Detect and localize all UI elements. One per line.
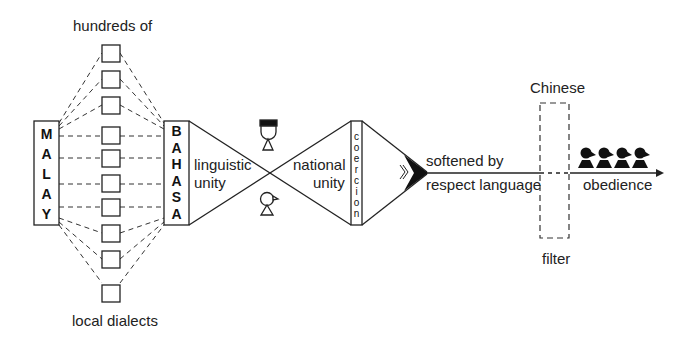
- label-softened-by: softened by: [426, 152, 504, 169]
- figure-man-icon: [260, 120, 277, 150]
- malay-letter: L: [42, 164, 51, 184]
- bahasa-letter: A: [171, 173, 181, 190]
- label-local-dialects: local dialects: [72, 312, 158, 329]
- label-respect-language: respect language: [426, 176, 541, 193]
- label-filter: filter: [542, 250, 570, 267]
- coercion-letter: c: [354, 175, 359, 186]
- obedient-figure-icon: [614, 148, 632, 169]
- coercion-letter: o: [354, 142, 360, 153]
- label-hundreds-of: hundreds of: [73, 17, 152, 34]
- coercion-letter: o: [354, 197, 360, 208]
- bahasa-letter: B: [171, 123, 181, 140]
- arrow-tip-icon: [656, 169, 664, 177]
- malay-letter: A: [41, 144, 51, 164]
- bahasa-letter: H: [171, 156, 181, 173]
- diagram-canvas: [0, 0, 698, 344]
- malay-letter: Y: [42, 204, 51, 224]
- coercion-letter: r: [355, 164, 358, 175]
- bahasa-letter: S: [172, 189, 181, 206]
- chinese-filter-box: [540, 103, 569, 238]
- label-national: national: [293, 156, 346, 173]
- figure-bird-head-icon: [261, 193, 279, 216]
- obedient-figure-icon: [632, 148, 650, 169]
- label-linguistic: linguistic: [194, 156, 252, 173]
- malay-letter: M: [41, 124, 53, 144]
- label-chinese: Chinese: [530, 79, 585, 96]
- coercion-letter: c: [354, 131, 359, 142]
- coercion-letter: e: [354, 153, 360, 164]
- dialect-squares: [102, 45, 120, 302]
- label-linguistic-unity: unity: [194, 174, 226, 191]
- obedient-figure-icon: [578, 148, 596, 169]
- bahasa-letters: B A H A S A: [164, 123, 189, 222]
- label-obedience: obedience: [583, 176, 652, 193]
- coercion-letters: c o e r c i o n: [351, 131, 362, 219]
- bahasa-letter: A: [171, 140, 181, 157]
- coercion-letter: i: [355, 186, 357, 197]
- coercion-letter: n: [354, 208, 360, 219]
- double-chevron-icon: [400, 165, 408, 179]
- obedient-figure-icon: [596, 148, 614, 169]
- bahasa-letter: A: [171, 206, 181, 223]
- malay-letter: A: [41, 184, 51, 204]
- label-national-unity: unity: [313, 174, 345, 191]
- malay-letters: M A L A Y: [34, 124, 59, 224]
- obedient-figures: [578, 148, 650, 169]
